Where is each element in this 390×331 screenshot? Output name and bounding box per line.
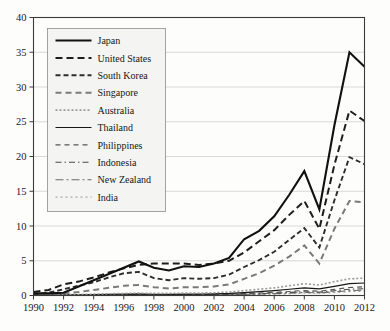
y-axis-tick-label: 20 [16,151,27,162]
x-axis-tick-label: 2008 [294,302,315,313]
y-axis-tick-label: 0 [21,290,26,301]
x-axis-tick-label: 2006 [264,302,285,313]
y-axis-tick-label: 35 [16,47,27,58]
y-axis-tick-label: 15 [16,186,27,197]
x-axis-tick-label: 2000 [173,302,194,313]
y-axis-tick-label: 40 [16,12,27,23]
legend-label-philippines: Philippines [98,140,143,151]
legend-label-united-states: United States [98,53,152,64]
y-axis-tick-label: 5 [21,255,26,266]
legend-label-south-korea: South Korea [98,70,149,81]
x-axis-tick-label: 1998 [143,302,164,313]
legend-label-india: India [98,192,119,203]
x-axis-tick-label: 1994 [83,302,105,313]
chart-figure: 0510152025303540199019921994199619982000… [0,0,390,331]
y-axis-tick-label: 25 [16,116,27,127]
x-axis-tick-label: 2004 [234,302,256,313]
line-chart: 0510152025303540199019921994199619982000… [0,0,390,331]
legend-label-singapore: Singapore [98,87,139,98]
x-axis-tick-label: 2012 [354,302,375,313]
x-axis-tick-label: 1992 [53,302,74,313]
x-axis-tick-label: 1996 [113,302,134,313]
legend-label-thailand: Thailand [98,122,134,133]
x-axis-tick-label: 1990 [23,302,44,313]
legend-label-new-zealand: New Zealand [98,174,152,185]
legend-label-australia: Australia [98,105,135,116]
legend-label-indonesia: Indonesia [98,157,137,168]
x-axis-tick-label: 2010 [324,302,345,313]
y-axis-tick-label: 30 [16,82,27,93]
y-axis-tick-label: 10 [16,221,27,232]
x-axis-tick-label: 2002 [204,302,225,313]
legend-label-japan: Japan [98,35,121,46]
